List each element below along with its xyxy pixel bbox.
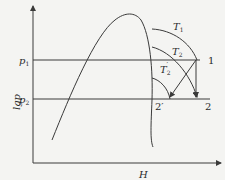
point-2prime-label: 2′ — [155, 101, 164, 112]
p1-label: p1 — [19, 55, 29, 67]
saturation-dome — [52, 14, 153, 147]
point-1-label: 1 — [208, 55, 214, 66]
lgp-h-diagram: lgp H p1 p2 T1 T2 T2′ 1 2 2′ — [0, 0, 225, 180]
x-axis-label: H — [138, 169, 148, 180]
process-1-to-2prime — [170, 60, 196, 97]
T2-label: T2 — [172, 46, 183, 58]
T2prime-label: T2′ — [160, 61, 171, 76]
isotherm-T2prime — [152, 78, 170, 99]
p2-label: p2 — [19, 94, 29, 106]
point-2-label: 2 — [205, 101, 211, 112]
T1-label: T1 — [173, 21, 184, 33]
